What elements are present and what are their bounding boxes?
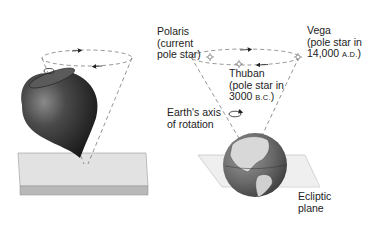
south-america: [256, 174, 273, 197]
spinning-top: [21, 64, 97, 158]
earth-globe: [223, 133, 287, 197]
polaris-star-icon: [206, 53, 214, 61]
rotation-arrow-icon: [229, 111, 241, 117]
tabletop-surface: [18, 153, 148, 195]
polaris-label: Polaris (current pole star): [157, 26, 201, 61]
earth-axis-label: Earth's axis of rotation: [167, 107, 221, 130]
precession-arrows-left: [72, 51, 102, 67]
thuban-label: Thuban (pole star in 3000 B.C.): [229, 68, 284, 104]
vega-label: Vega (pole star in 14,000 A.D.): [307, 25, 362, 61]
precession-arrows-right: [240, 50, 268, 66]
ecliptic-plane-label: Ecliptic plane: [298, 191, 331, 214]
